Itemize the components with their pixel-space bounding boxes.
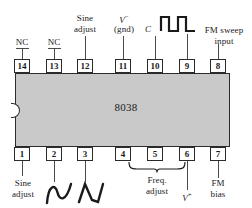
- pin-12-leader: [85, 36, 86, 59]
- pin-14-leader: [22, 48, 23, 59]
- pin-13-leader-tick: [48, 48, 61, 49]
- pin-9-leader: [187, 34, 188, 59]
- pin-11-leader: [123, 36, 124, 59]
- pin-1-label-line2: adjust: [2, 189, 44, 199]
- pin-10[interactable]: 10: [147, 59, 163, 73]
- pin-8-leader: [218, 44, 219, 59]
- pin-13-label: NC: [40, 37, 68, 47]
- pin-14[interactable]: 14: [14, 59, 30, 73]
- pin-7-label-line1: FM: [200, 178, 236, 188]
- pin-12[interactable]: 12: [77, 59, 93, 73]
- pin-5[interactable]: 5: [147, 147, 163, 161]
- v-minus-sign: −: [125, 13, 129, 21]
- square-wave-icon: [159, 13, 197, 33]
- pin-6[interactable]: 6: [179, 147, 195, 161]
- pin-14-label: NC: [8, 37, 36, 47]
- pin-7-leader: [218, 161, 219, 178]
- pin-14-leader-tick: [16, 48, 29, 49]
- sine-wave-icon: [45, 181, 73, 205]
- pin-9[interactable]: 9: [179, 59, 195, 73]
- pin-1-leader: [22, 161, 23, 176]
- v-plus-sign: +: [188, 191, 192, 199]
- pin-11[interactable]: 11: [115, 59, 131, 73]
- pins-4-5-label-line1: Freq.: [130, 175, 184, 185]
- pin-2[interactable]: 2: [46, 147, 62, 161]
- pin-13[interactable]: 13: [46, 59, 62, 73]
- pin-12-label-line2: adjust: [64, 24, 106, 34]
- pin-8[interactable]: 8: [210, 59, 226, 73]
- pin-6-label: V+: [172, 190, 202, 203]
- pin-1[interactable]: 1: [14, 147, 30, 161]
- pin-3-leader: [85, 161, 86, 182]
- pin-6-leader: [187, 161, 188, 190]
- pin-2-leader: [54, 161, 55, 182]
- pin-13-leader: [54, 48, 55, 59]
- pin-7[interactable]: 7: [210, 147, 226, 161]
- pin-7-label-line2: bias: [200, 189, 236, 199]
- pin-12-label-line1: Sine: [64, 13, 106, 23]
- pin-1-label-line1: Sine: [2, 178, 44, 188]
- ic-pinout-diagram: NC NC Sine adjust V− (gnd) C FM sweep in…: [0, 0, 252, 208]
- pin-10-label: C: [138, 24, 158, 34]
- pin-10-leader: [155, 36, 156, 59]
- pin-3[interactable]: 3: [77, 147, 93, 161]
- curly-brace-icon: [128, 162, 186, 173]
- pin-8-label-line1: FM sweep: [196, 25, 252, 35]
- triangle-wave-icon: [77, 181, 105, 205]
- pin-8-label-line2: input: [196, 36, 252, 46]
- chip-part-number: 8038: [0, 101, 252, 113]
- pin-4[interactable]: 4: [115, 147, 131, 161]
